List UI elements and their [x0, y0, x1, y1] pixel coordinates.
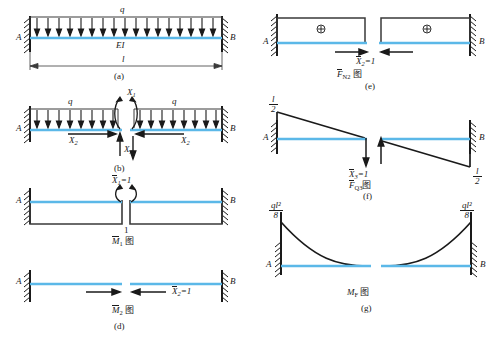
support-wall-left [24, 16, 30, 53]
moment-curve-left [281, 222, 368, 266]
ordinate-label-left-ql2-8: ql² 8 [269, 201, 283, 221]
redundant-label-x1: X1 [127, 88, 136, 97]
distributed-load-arrows-left [34, 110, 115, 128]
axial-arrows-x2 [68, 131, 184, 137]
support-wall-left [24, 106, 30, 143]
unit-shear-arrows-x3 [363, 138, 384, 166]
unit-force-label-x3: X3=1 [349, 170, 368, 179]
support-label-b: B [230, 33, 236, 42]
support-label-a: A [16, 33, 22, 42]
support-label-b: B [230, 124, 236, 133]
load-label-q-right: q [172, 97, 177, 106]
redundant-label-x2-left: X2 [69, 136, 78, 145]
support-wall-right [471, 212, 477, 277]
distributed-load-arrows [34, 18, 215, 36]
panel-e-caption: (e) [365, 82, 375, 91]
support-label-b: B [479, 37, 485, 46]
panel-g: A B ql² 8 ql² 8 MF 图 (g) [255, 200, 501, 349]
unit-force-label-x2: X2=1 [172, 287, 191, 296]
ordinate-label-right-ql2-8: ql² 8 [460, 201, 474, 221]
ordinate-label-left-half-span: l 2 [269, 95, 278, 115]
support-wall-left [275, 212, 281, 277]
support-wall-left [24, 270, 30, 302]
support-label-a: A [16, 124, 22, 133]
panel-g-graphic [255, 200, 501, 349]
panel-e: A B X2=1 FN2 图 (e) [255, 0, 501, 92]
support-label-a: A [16, 277, 22, 286]
support-wall-right [222, 106, 228, 143]
span-dimension-line [30, 52, 222, 70]
panel-a-graphic [0, 0, 250, 88]
support-wall-right [470, 14, 476, 56]
redundant-label-x2-right: X2 [181, 136, 190, 145]
panel-d-caption: (d) [114, 322, 125, 331]
diagram-label-fn2: FN2 图 [337, 70, 362, 79]
diagram-label-mf: MF 图 [347, 288, 369, 297]
sign-marker-left [317, 25, 325, 33]
span-label-l: l [122, 55, 125, 64]
stiffness-label-ei: EI [116, 41, 125, 50]
support-label-a: A [16, 196, 22, 205]
panel-a-caption: (a) [114, 72, 124, 81]
panel-c: A B X1=1 1 M1 图 [0, 176, 250, 258]
ordinate-label-one: 1 [124, 226, 129, 235]
load-label-q: q [120, 5, 125, 14]
panel-g-caption: (g) [361, 304, 372, 313]
panel-d: A B X2=1 M2 图 (d) [0, 262, 250, 349]
diagram-label-m1: M1 图 [112, 237, 134, 246]
support-label-a: A [263, 133, 269, 142]
panel-f-graphic [255, 92, 501, 200]
support-wall-right [222, 188, 228, 225]
redundant-label-x3: X3 [124, 145, 133, 154]
support-wall-left [271, 120, 277, 154]
diagram-label-fq3: FQ3图 [349, 181, 371, 190]
support-wall-right [222, 270, 228, 302]
support-label-b: B [479, 133, 485, 142]
support-label-a: A [263, 37, 269, 46]
unit-axial-arrows-x2 [335, 49, 413, 55]
support-label-b: B [480, 260, 486, 269]
support-label-b: B [230, 196, 236, 205]
support-wall-left [24, 188, 30, 225]
axial-diagram-right-block [381, 18, 470, 42]
panel-b-caption: (b) [114, 164, 125, 173]
diagram-label-m2: M2 图 [112, 306, 134, 315]
distributed-load-arrows-right [137, 110, 218, 128]
ordinate-label-right-half-span: l 2 [473, 167, 482, 187]
moment-diagram-m1 [30, 200, 222, 224]
load-label-q-left: q [68, 97, 73, 106]
panel-b: A B q q X1 X2 X2 X3 (b) [0, 88, 250, 176]
support-wall-right [222, 16, 228, 53]
support-wall-right [470, 120, 476, 154]
shear-diagram-left [277, 112, 365, 139]
shear-diagram-right [382, 140, 470, 167]
support-wall-left [271, 14, 277, 56]
panel-f: A B l 2 l 2 X3=1 FQ3图 (f) [255, 92, 501, 200]
panel-a: A B q EI l (a) [0, 0, 250, 88]
unit-force-label-x1: X1=1 [112, 176, 131, 185]
panel-e-graphic [255, 0, 501, 92]
panel-b-graphic [0, 88, 250, 176]
sign-marker-right [423, 25, 431, 33]
support-label-b: B [230, 277, 236, 286]
unit-axial-arrows-x2 [86, 289, 166, 295]
moment-curve-right [384, 222, 471, 266]
support-label-a: A [266, 260, 272, 269]
unit-force-label-x2: X2=1 [356, 57, 375, 66]
